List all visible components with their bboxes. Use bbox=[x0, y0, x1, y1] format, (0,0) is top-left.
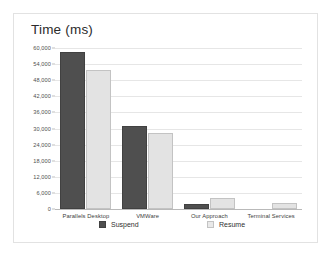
bars-layer: Parallels DesktopVMWareOur ApproachTermi… bbox=[55, 48, 302, 209]
bar-group: Terminal Services bbox=[240, 48, 302, 209]
x-axis-category-label: Parallels Desktop bbox=[55, 213, 117, 219]
legend-label-resume: Resume bbox=[219, 221, 245, 228]
bar-resume bbox=[210, 198, 235, 209]
y-axis-tick-label: 54,000 bbox=[33, 61, 51, 67]
y-axis-tick-label: 60,000 bbox=[33, 45, 51, 51]
y-axis-tick-label: 48,000 bbox=[33, 77, 51, 83]
plot-area: 60,00054,00048,00042,00036,00030,00024,0… bbox=[55, 48, 302, 209]
y-axis-tick-label: 30,000 bbox=[33, 126, 51, 132]
bar-group: VMWare bbox=[117, 48, 179, 209]
bar-resume bbox=[148, 133, 173, 209]
chart-figure: Time (ms) 60,00054,00048,00042,00036,000… bbox=[13, 13, 318, 243]
legend-item-resume: Resume bbox=[207, 221, 245, 228]
bar-suspend bbox=[60, 52, 85, 209]
y-axis-tick-label: 6,000 bbox=[37, 190, 52, 196]
gridline bbox=[55, 209, 302, 210]
x-axis-category-label: Our Approach bbox=[179, 213, 241, 219]
bar-group: Parallels Desktop bbox=[55, 48, 117, 209]
y-axis-tick-label: 42,000 bbox=[33, 93, 51, 99]
chart-legend: Suspend Resume bbox=[55, 221, 302, 235]
y-axis-tick-label: 18,000 bbox=[33, 158, 51, 164]
legend-swatch-resume-icon bbox=[207, 221, 214, 228]
legend-swatch-suspend-icon bbox=[99, 221, 106, 228]
bar-resume bbox=[86, 70, 111, 209]
y-axis-tick-label: 12,000 bbox=[33, 174, 51, 180]
bar-suspend bbox=[184, 204, 209, 209]
bar-suspend bbox=[122, 126, 147, 209]
x-axis-category-label: VMWare bbox=[117, 213, 179, 219]
legend-item-suspend: Suspend bbox=[99, 221, 139, 228]
bar-group: Our Approach bbox=[179, 48, 241, 209]
bar-resume bbox=[272, 203, 297, 209]
y-axis-tick-label: 24,000 bbox=[33, 142, 51, 148]
y-axis-tick-label: 36,000 bbox=[33, 109, 51, 115]
chart-title: Time (ms) bbox=[31, 22, 93, 37]
y-axis-tick-label: 0 bbox=[48, 206, 51, 212]
x-axis-category-label: Terminal Services bbox=[240, 213, 302, 219]
legend-label-suspend: Suspend bbox=[111, 221, 139, 228]
